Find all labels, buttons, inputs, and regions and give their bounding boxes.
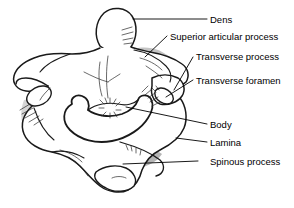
label-dens: Dens bbox=[210, 15, 232, 25]
label-spinous-process: Spinous process bbox=[210, 157, 280, 167]
figure-canvas: DensSuperior articular processTransverse… bbox=[0, 0, 294, 208]
label-superior-articular-process: Superior articular process bbox=[170, 32, 278, 42]
label-transverse-foramen: Transverse foramen bbox=[196, 76, 281, 86]
leader-line-lamina bbox=[176, 138, 207, 142]
dens-outline bbox=[96, 8, 136, 51]
label-lamina: Lamina bbox=[210, 138, 241, 148]
label-body: Body bbox=[210, 120, 232, 130]
label-transverse-process: Transverse process bbox=[196, 52, 279, 62]
